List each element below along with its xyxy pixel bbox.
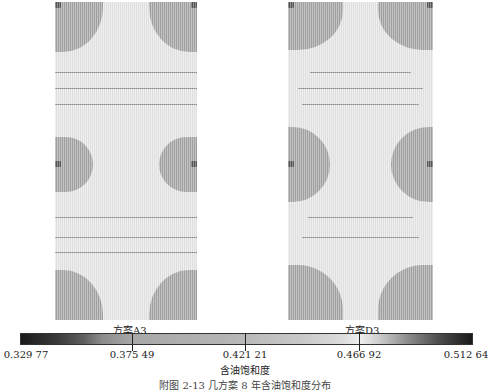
colorbar	[20, 333, 473, 345]
saturation-map-a3	[55, 2, 197, 320]
figure-caption: 附图 2-13 几方案 8 年含油饱和度分布	[159, 377, 331, 392]
colorbar-tick-label: 0.512 64	[444, 349, 489, 360]
colorbar-tick-label: 0.375 49	[110, 349, 155, 360]
colorbar-tick-label: 0.466 92	[337, 349, 382, 360]
colorbar-tick-label: 0.329 77	[4, 349, 49, 360]
colorbar-title: 含油饱和度	[220, 362, 270, 377]
grid-texture	[288, 2, 433, 320]
grid-texture	[55, 2, 197, 320]
colorbar-tick-label: 0.421 21	[223, 349, 268, 360]
saturation-map-d3	[288, 2, 433, 320]
